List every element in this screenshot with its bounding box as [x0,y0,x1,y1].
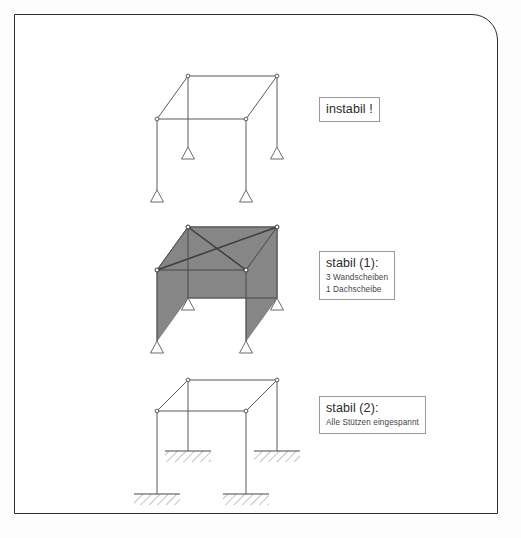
label-stabil-2-title: stabil (2): [326,400,419,416]
frame-fixed-columns [134,378,300,505]
frame-unstable-supports [151,147,284,202]
pinned-support-icon [240,190,253,202]
wall-panels [157,227,277,341]
label-stabil-1: stabil (1): 3 Wandscheiben 1 Dachscheibe [319,251,395,300]
label-stabil-1-line-2: 1 Dachscheibe [326,285,388,296]
fixed-support-icon [165,451,211,462]
label-stabil-1-title: stabil (1): [326,255,388,271]
structural-diagram [0,0,521,538]
fixed-support-icon [223,494,269,505]
label-instabil: instabil ! [319,97,380,122]
frame-unstable [151,74,284,202]
frame-unstable-columns [157,76,277,190]
label-instabil-title: instabil ! [326,101,373,117]
frame-fixed-columns-supports [134,451,300,505]
frame-unstable-roof [157,76,277,119]
pinned-support-icon [240,341,253,353]
frame-stable-walls [151,225,284,353]
label-stabil-1-line-1: 3 Wandscheiben [326,273,388,284]
frame-unstable-nodes [155,74,279,121]
fixed-support-icon [134,494,180,505]
pinned-support-icon [151,190,164,202]
fixed-support-icon [254,451,300,462]
pinned-support-icon [151,341,164,353]
frame-fixed-columns-nodes [155,378,279,413]
page-canvas: instabil ! stabil (1): 3 Wandscheiben 1 … [0,0,521,538]
pinned-support-icon [271,147,284,159]
frame-fixed-columns-members [157,380,277,494]
pinned-support-icon [182,147,195,159]
label-stabil-2: stabil (2): Alle Stützen eingespannt [319,396,426,434]
label-stabil-2-line-1: Alle Stützen eingespannt [326,418,419,429]
